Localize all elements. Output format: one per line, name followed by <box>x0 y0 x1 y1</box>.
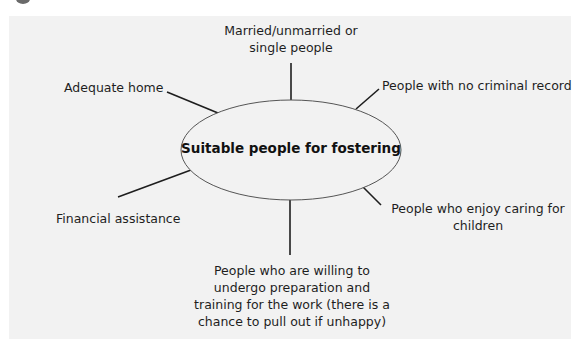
center-label: Suitable people for fostering <box>181 140 401 156</box>
branch-label-line: Financial assistance <box>56 210 186 227</box>
branch-label-top-right: People with no criminal record <box>382 77 572 94</box>
branch-label-line: chance to pull out if unhappy) <box>192 313 392 330</box>
branch-label-line: Adequate home <box>64 79 164 96</box>
branch-label-bottom-right: People who enjoy caring for children <box>388 200 568 234</box>
branch-label-top-left: Adequate home <box>64 79 164 96</box>
branch-label-line: children <box>388 217 568 234</box>
branch-label-line: single people <box>211 39 371 56</box>
branch-label-top: Married/unmarried or single people <box>211 22 371 56</box>
connector-top-left <box>167 92 218 113</box>
connector-top-right <box>356 89 379 109</box>
branch-label-line: People who enjoy caring for <box>388 200 568 217</box>
branch-label-line: People with no criminal record <box>382 77 572 94</box>
branch-label-bottom-left: Financial assistance <box>56 210 186 227</box>
connector-bottom-left <box>118 170 191 197</box>
branch-label-line: People who are willing to <box>192 262 392 279</box>
branch-label-bottom: People who are willing to undergo prepar… <box>192 262 392 330</box>
branch-label-line: Married/unmarried or <box>211 22 371 39</box>
branch-label-line: undergo preparation and <box>192 279 392 296</box>
connector-bottom-right <box>362 186 381 205</box>
branch-label-line: training for the work (there is a <box>192 296 392 313</box>
